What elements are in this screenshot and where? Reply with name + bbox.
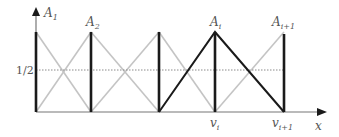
label-vi: vi xyxy=(210,116,220,132)
hat-function-diagram: 1/2 A1 A2 Ai Ai+1 vi vi+1 x xyxy=(0,0,339,137)
y-axis-arrow-icon xyxy=(32,7,40,16)
half-label: 1/2 xyxy=(16,64,34,77)
label-ai1: Ai+1 xyxy=(271,15,295,31)
label-ai: Ai xyxy=(209,15,222,31)
label-a2: A2 xyxy=(85,15,100,31)
highlighted-hat-function xyxy=(159,32,284,112)
thick-bars xyxy=(36,32,284,112)
x-axis-arrow-icon xyxy=(317,108,327,116)
label-vi1: vi+1 xyxy=(272,116,293,132)
x-axis-label: x xyxy=(315,119,322,133)
label-a1: A1 xyxy=(43,6,58,22)
